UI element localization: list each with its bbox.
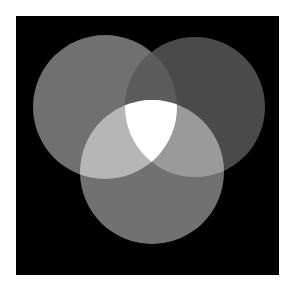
venn-diagram — [0, 0, 296, 292]
